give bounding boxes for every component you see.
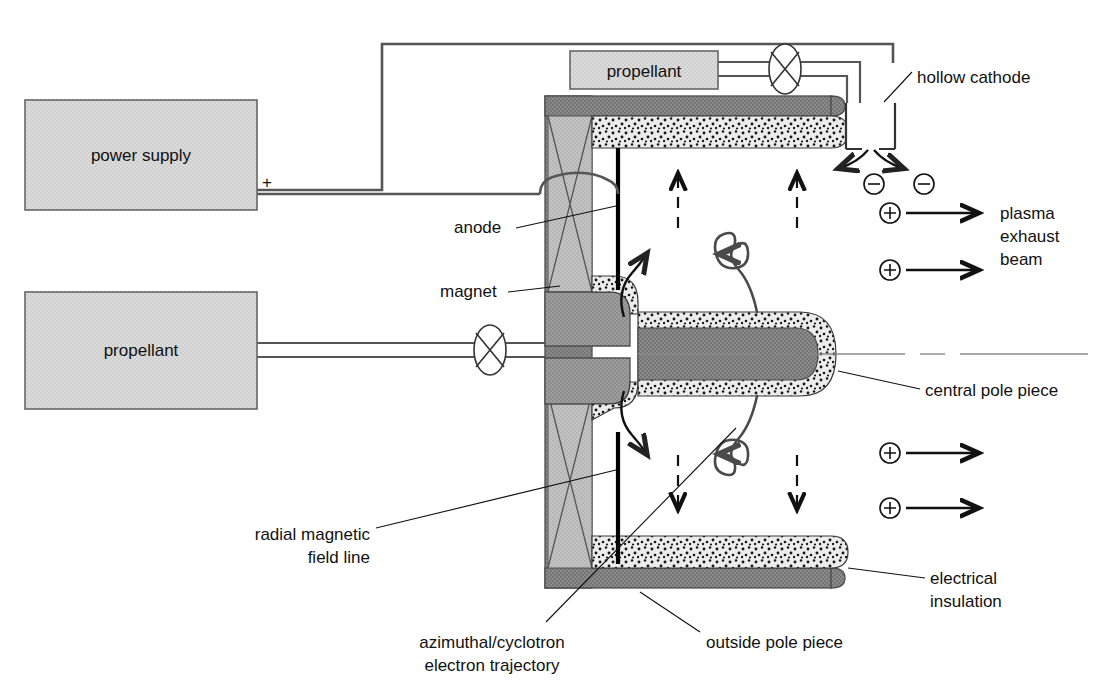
box-power-supply-label: power supply [91,146,192,165]
box-propellant-cathode-label: propellant [607,62,682,81]
callout-plasma-line-3: beam [1000,250,1043,269]
callout-plasma-line-2: exhaust [1000,227,1060,246]
callout-outside-pole-piece: outside pole piece [706,633,843,652]
callout-central-pole-piece: central pole piece [925,381,1058,400]
magnet-coil-icon-upper [548,116,592,292]
callout-trajectory-line-2: electron trajectory [424,656,560,675]
callout-electrical-insulation: electrical insulation [930,569,1002,611]
callout-radial-line-1: radial magnetic [255,525,371,544]
callout-magnet-label: magnet [440,282,497,301]
diagram-canvas: power supply propellant propellant + [0,0,1110,686]
callout-azimuthal-cyclotron-electron-trajectory: azimuthal/cyclotron electron trajectory [419,633,565,675]
callout-plasma-line-1: plasma [1000,204,1055,223]
ion-symbol-4 [880,498,977,518]
valve-icon-main-line[interactable] [474,325,506,375]
positive-terminal-label: + [262,173,272,192]
callout-hollow-cathode-label: hollow cathode [917,68,1030,87]
box-power-supply[interactable]: power supply [25,100,257,210]
callout-hollow-cathode: hollow cathode [917,68,1030,87]
ion-symbol-1 [880,203,977,223]
callout-trajectory-line-1: azimuthal/cyclotron [419,633,565,652]
propellant-feed-line [257,343,556,357]
hollow-cathode[interactable] [846,103,895,149]
azimuthal-cyclotron-electron-trajectory-lower [715,396,757,475]
box-propellant-cathode[interactable]: propellant [570,51,718,89]
box-propellant-main-label: propellant [104,341,179,360]
ion-symbol-3 [880,443,977,463]
magnet-coil-icon-lower [548,393,592,568]
callout-radial-magnetic-field-line: radial magnetic field line [255,525,371,567]
callout-central-pole-piece-label: central pole piece [925,381,1058,400]
callout-magnet: magnet [440,282,497,301]
callout-insulation-line-2: insulation [930,592,1002,611]
azimuthal-cyclotron-electron-trajectory-upper [715,233,757,312]
callout-outside-pole-piece-label: outside pole piece [706,633,843,652]
ion-symbol-2 [880,260,977,280]
valve-icon-cathode-line[interactable] [769,44,801,94]
electron-symbol-1 [864,174,884,194]
callout-anode: anode [454,218,501,237]
cathode-electron-emission-arrows [840,150,902,168]
box-propellant-main[interactable]: propellant [25,292,257,409]
hall-thruster-schematic: power supply propellant propellant + [0,0,1110,686]
callout-radial-line-2: field line [308,548,370,567]
electron-symbol-2 [914,174,934,194]
callout-anode-label: anode [454,218,501,237]
callout-plasma-exhaust-beam: plasma exhaust beam [1000,204,1060,269]
callout-insulation-line-1: electrical [930,569,997,588]
